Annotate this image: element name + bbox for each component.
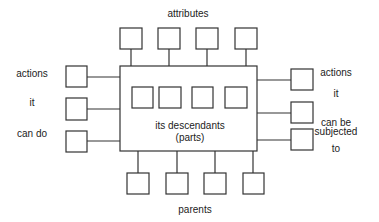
- right-label-to: to: [332, 143, 341, 154]
- parent-box: [127, 173, 149, 194]
- left-label-can-do: can do: [17, 128, 47, 139]
- action-box: [66, 66, 87, 87]
- attribute-box: [120, 28, 142, 49]
- subjected-action-box: [291, 102, 313, 123]
- right-label-subjected: subjected: [315, 126, 358, 137]
- parent-box: [166, 173, 188, 194]
- object-structure-diagram: attributes its descendants (parts) paren…: [0, 0, 379, 222]
- attribute-boxes: [120, 28, 257, 66]
- attribute-box: [235, 28, 257, 49]
- left-label-actions: actions: [16, 68, 48, 79]
- descendant-box: [192, 87, 213, 108]
- subjected-action-box: [291, 129, 313, 150]
- descendant-box: [132, 87, 153, 108]
- right-action-boxes: [257, 69, 313, 150]
- action-box: [66, 131, 87, 152]
- parent-boxes: [127, 151, 264, 194]
- descendants-label: its descendants: [155, 120, 225, 131]
- subjected-action-box: [291, 69, 313, 90]
- right-label-actions: actions: [320, 67, 352, 78]
- parent-box: [204, 173, 226, 194]
- parents-label: parents: [178, 204, 211, 215]
- attribute-box: [196, 28, 218, 49]
- descendant-box: [159, 87, 181, 108]
- attribute-box: [158, 28, 180, 49]
- descendant-box: [225, 87, 247, 108]
- attributes-label: attributes: [167, 8, 208, 19]
- right-label-it: it: [334, 88, 339, 99]
- action-box: [66, 98, 87, 120]
- parent-box: [243, 173, 264, 194]
- left-action-boxes: [66, 66, 120, 152]
- left-label-it: it: [30, 97, 35, 108]
- parts-label: (parts): [176, 132, 205, 143]
